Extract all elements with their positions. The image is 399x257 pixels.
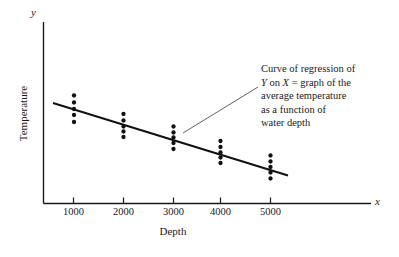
annotation-line-3: average temperature: [261, 89, 396, 103]
data-point: [72, 100, 76, 104]
scatter-points: [72, 93, 273, 180]
data-point: [218, 145, 222, 149]
x-tick-label-3000: 3000: [152, 207, 196, 218]
annotation-line-1: Curve of regression of: [261, 62, 396, 76]
annotation-line-2-mid: on: [267, 77, 283, 88]
data-point: [171, 141, 175, 145]
data-point: [268, 170, 272, 174]
regression-line: [53, 103, 288, 176]
x-axis-title: Depth: [150, 226, 196, 237]
x-axis-ticks: [74, 198, 271, 204]
data-point: [72, 107, 76, 111]
y-axis-symbol: y: [31, 7, 36, 18]
data-point: [171, 124, 175, 128]
x-tick-label-2000: 2000: [102, 207, 146, 218]
data-point: [72, 113, 76, 117]
annotation-line-5: water depth: [261, 116, 396, 130]
data-point: [72, 93, 76, 97]
data-point: [268, 165, 272, 169]
annotation-line-2-suffix: = graph of the: [289, 77, 351, 88]
annotation-line-2: Y on X = graph of the: [261, 76, 396, 90]
data-point: [171, 135, 175, 139]
regression-figure: y x 1000 2000 3000 4000 5000 Depth Tempe…: [0, 0, 399, 257]
annotation-line-4: as a function of: [261, 103, 396, 117]
data-point: [121, 124, 125, 128]
x-axis-symbol: x: [375, 196, 380, 207]
x-tick-label-1000: 1000: [52, 207, 96, 218]
data-point: [218, 139, 222, 143]
data-point: [218, 155, 222, 159]
data-point: [121, 112, 125, 116]
data-point: [121, 118, 125, 122]
x-tick-label-5000: 5000: [249, 207, 293, 218]
data-point: [171, 147, 175, 151]
data-point: [268, 153, 272, 157]
data-point: [171, 130, 175, 134]
data-point: [268, 176, 272, 180]
data-point: [121, 135, 125, 139]
data-point: [268, 159, 272, 163]
data-point: [72, 120, 76, 124]
annotation-leader-line: [183, 87, 258, 133]
regression-annotation: Curve of regression of Y on X = graph of…: [261, 62, 396, 130]
y-axis-title: Temperature: [18, 71, 29, 157]
x-tick-label-4000: 4000: [199, 207, 243, 218]
data-point: [218, 150, 222, 154]
data-point: [121, 129, 125, 133]
data-point: [218, 161, 222, 165]
